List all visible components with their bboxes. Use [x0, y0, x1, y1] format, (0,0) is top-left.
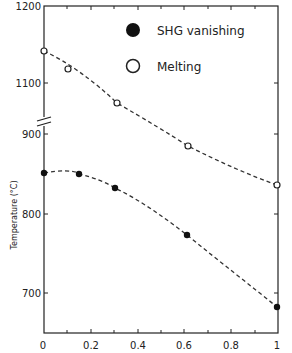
chart: 1200 1100 900 800 700 0 0.2 0.4 0.6 0.8 …	[0, 0, 292, 353]
x-tick-label: 0.2	[83, 340, 99, 351]
legend-filled-circle-icon	[126, 23, 140, 37]
y-tick-label: 1100	[16, 78, 41, 89]
shg-points	[41, 170, 280, 310]
y-tick-label: 700	[22, 288, 41, 299]
y-tick-label: 1200	[16, 1, 41, 12]
shg-curve	[44, 171, 277, 307]
x-tick-label: 1	[274, 340, 280, 351]
x-tick-label: 0	[40, 340, 46, 351]
y-axis-label: Temperature (°C)	[10, 180, 19, 250]
y-tick-label: 900	[22, 129, 41, 140]
x-tick-label: 0.8	[223, 340, 239, 351]
legend-open-circle-icon	[127, 60, 140, 73]
legend-melting-label: Melting	[157, 60, 201, 74]
x-ticks	[67, 6, 255, 333]
plot-frame	[44, 6, 278, 333]
y-tick-label: 800	[22, 209, 41, 220]
x-tick-label: 0.6	[176, 340, 192, 351]
x-tick-label: 0.4	[130, 340, 146, 351]
legend-shg-label: SHG vanishing	[157, 24, 245, 38]
y-ticks	[44, 83, 278, 293]
